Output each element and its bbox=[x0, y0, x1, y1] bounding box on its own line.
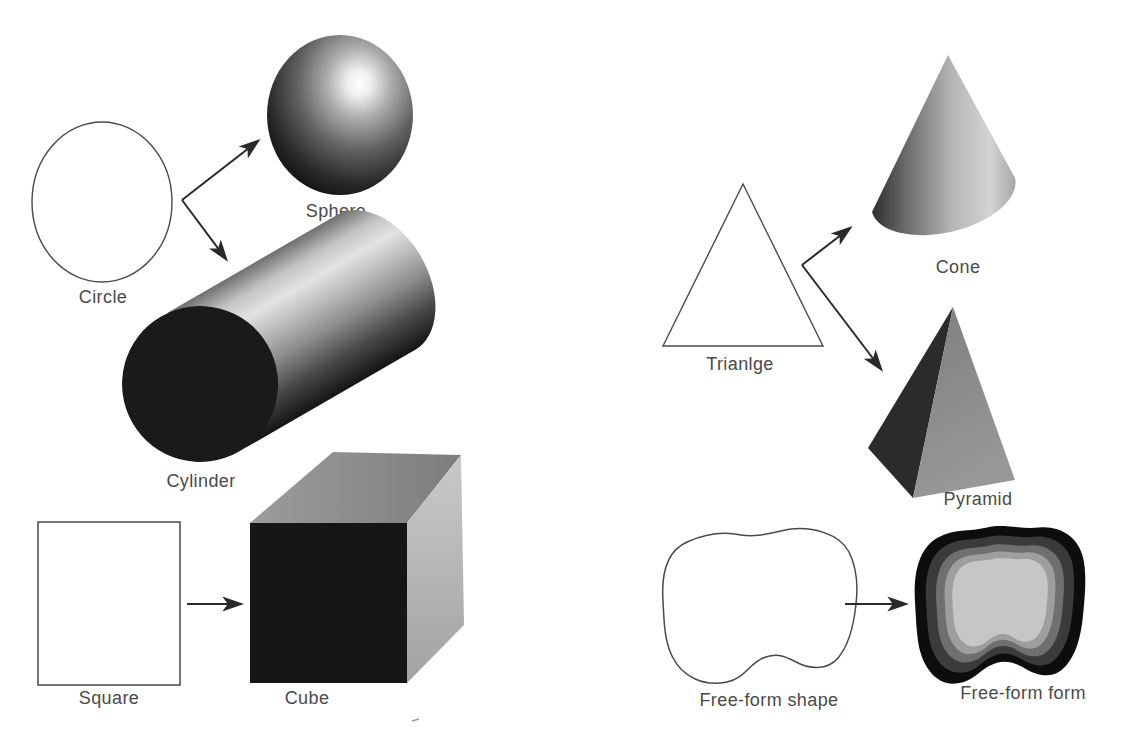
arrow-triangle-to-cone bbox=[802, 228, 850, 265]
cone-label: Cone bbox=[936, 257, 981, 277]
freeform-form bbox=[915, 526, 1086, 684]
scan-speck bbox=[412, 719, 419, 721]
cube-front-face bbox=[250, 523, 407, 683]
arrow-circle-to-sphere bbox=[182, 141, 258, 200]
sphere-form bbox=[267, 35, 413, 195]
circle-label: Circle bbox=[79, 287, 127, 307]
cylinder-label: Cylinder bbox=[166, 471, 235, 491]
triangle-outline-shape bbox=[663, 184, 823, 346]
pyramid-label: Pyramid bbox=[944, 489, 1013, 509]
arrow-triangle-to-pyramid bbox=[802, 265, 881, 369]
freeform-shape-label: Free-form shape bbox=[699, 690, 838, 710]
triangle-label: Trianlge bbox=[706, 354, 774, 374]
circle-outline-shape bbox=[32, 122, 172, 282]
arrow-circle-to-cylinder bbox=[182, 200, 226, 259]
freeform-form-center bbox=[952, 558, 1048, 646]
freeform-outline-shape bbox=[663, 529, 857, 684]
cube-label: Cube bbox=[285, 688, 330, 708]
cube-form bbox=[250, 452, 464, 683]
shapes-to-forms-figure: Circle Sphere Cylinder Square Cube Trian… bbox=[0, 0, 1135, 729]
pyramid-form bbox=[868, 307, 1015, 498]
square-outline-shape bbox=[38, 522, 180, 685]
square-label: Square bbox=[79, 688, 139, 708]
scanned-diagram-page: Circle Sphere Cylinder Square Cube Trian… bbox=[0, 0, 1135, 729]
cone-form bbox=[872, 55, 1016, 235]
freeform-form-label: Free-form form bbox=[960, 683, 1086, 703]
